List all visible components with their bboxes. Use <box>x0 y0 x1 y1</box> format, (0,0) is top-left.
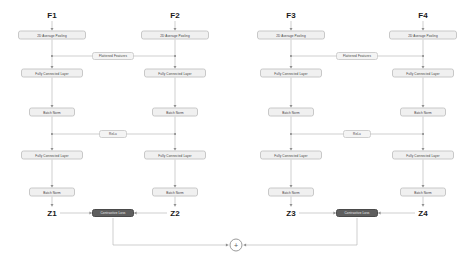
arrow-sum-right <box>244 244 247 247</box>
node-batch-norm-F3[interactable]: Batch Norm <box>268 108 314 117</box>
output-label-z4: Z4 <box>418 209 428 218</box>
loss-contrastive-Z1-Z2[interactable]: Contrastive Loss <box>92 209 134 217</box>
arrow-Z3-Z4-right <box>378 212 381 215</box>
junction-F4-1 <box>422 133 424 135</box>
output-label-z3: Z3 <box>286 209 296 218</box>
node-fully-connected-layer-F3[interactable]: Fully Connected Layer <box>260 151 322 160</box>
arrow-Z1-Z2-right <box>134 212 137 215</box>
output-label-z1: Z1 <box>47 209 57 218</box>
node-batch-norm-F2[interactable]: Batch Norm <box>152 188 198 197</box>
node-batch-norm-F1[interactable]: Batch Norm <box>29 188 75 197</box>
link-relu-F3-F4[interactable]: ReLu <box>343 130 371 138</box>
arrow-sum-left <box>226 244 229 247</box>
junction-F4-0 <box>422 55 424 57</box>
node-fully-connected-layer-F4[interactable]: Fully Connected Layer <box>392 151 454 160</box>
link-flattened-features-F3-F4[interactable]: Flattened Features <box>336 52 378 60</box>
link-flattened-features-F1-F2[interactable]: Flattened Features <box>92 52 134 60</box>
input-label-f2: F2 <box>170 11 180 20</box>
node-fully-connected-layer-F4[interactable]: Fully Connected Layer <box>392 69 454 78</box>
node-2d-average-pooling-F1[interactable]: 2D Average Pooling <box>18 31 86 40</box>
node-batch-norm-F4[interactable]: Batch Norm <box>400 188 446 197</box>
junction-F3-1 <box>290 133 292 135</box>
node-2d-average-pooling-F3[interactable]: 2D Average Pooling <box>257 31 325 40</box>
junction-F1-1 <box>51 133 53 135</box>
arrow-into-Z1 <box>51 204 54 207</box>
input-label-f4: F4 <box>418 11 428 20</box>
junction-F2-1 <box>174 133 176 135</box>
link-relu-F1-F2[interactable]: ReLu <box>99 130 127 138</box>
junction-F2-0 <box>174 55 176 57</box>
loss-contrastive-Z3-Z4[interactable]: Contrastive Loss <box>336 209 378 217</box>
connector-wires <box>0 0 472 265</box>
junction-F1-0 <box>51 55 53 57</box>
node-2d-average-pooling-F2[interactable]: 2D Average Pooling <box>141 31 209 40</box>
node-fully-connected-layer-F1[interactable]: Fully Connected Layer <box>21 151 83 160</box>
node-batch-norm-F1[interactable]: Batch Norm <box>29 108 75 117</box>
input-label-f1: F1 <box>47 11 57 20</box>
node-fully-connected-layer-F1[interactable]: Fully Connected Layer <box>21 69 83 78</box>
junction-F3-0 <box>290 55 292 57</box>
node-fully-connected-layer-F3[interactable]: Fully Connected Layer <box>260 69 322 78</box>
diagram-canvas: F12D Average PoolingFully Connected Laye… <box>0 0 472 265</box>
input-label-f3: F3 <box>286 11 296 20</box>
node-batch-norm-F2[interactable]: Batch Norm <box>152 108 198 117</box>
output-label-z2: Z2 <box>170 209 180 218</box>
wire-loss-left-to-sum <box>113 218 229 245</box>
node-2d-average-pooling-F4[interactable]: 2D Average Pooling <box>389 31 457 40</box>
arrow-into-Z2 <box>174 204 177 207</box>
sum-node[interactable]: + <box>230 239 243 252</box>
arrow-into-Z3 <box>290 204 293 207</box>
wire-loss-right-to-sum <box>244 218 358 245</box>
node-batch-norm-F4[interactable]: Batch Norm <box>400 108 446 117</box>
arrow-into-Z4 <box>422 204 425 207</box>
node-fully-connected-layer-F2[interactable]: Fully Connected Layer <box>144 151 206 160</box>
node-batch-norm-F3[interactable]: Batch Norm <box>268 188 314 197</box>
node-fully-connected-layer-F2[interactable]: Fully Connected Layer <box>144 69 206 78</box>
